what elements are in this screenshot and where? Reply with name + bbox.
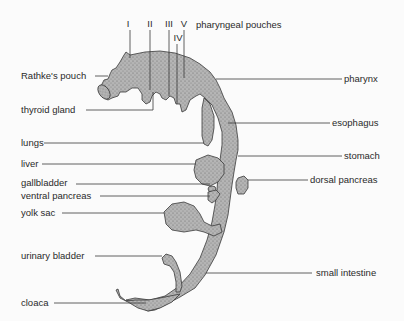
label-stomach: stomach bbox=[344, 150, 380, 161]
label-thyroid-gland: thyroid gland bbox=[21, 104, 75, 115]
label-lungs: lungs bbox=[21, 137, 44, 148]
label-rathkes-pouch: Rathke's pouch bbox=[21, 70, 86, 81]
label-cloaca: cloaca bbox=[21, 297, 49, 308]
embryonic-gut-diagram: I II III IV V pharyngeal pouches Rathke'… bbox=[0, 0, 404, 321]
pharyngeal-pouches-title: pharyngeal pouches bbox=[196, 19, 282, 30]
label-pharynx: pharynx bbox=[344, 73, 378, 84]
pouch-label-IV: IV bbox=[174, 32, 184, 43]
label-dorsal-pancreas: dorsal pancreas bbox=[310, 174, 378, 185]
label-liver: liver bbox=[21, 158, 38, 169]
pouch-label-I: I bbox=[127, 18, 130, 29]
label-esophagus: esophagus bbox=[332, 117, 379, 128]
label-urinary-bladder: urinary bladder bbox=[21, 250, 84, 261]
gut-tube bbox=[95, 51, 248, 311]
label-yolk-sac: yolk sac bbox=[21, 207, 56, 218]
pouch-label-II: II bbox=[147, 18, 152, 29]
label-gallbladder: gallbladder bbox=[21, 177, 67, 188]
dorsal-pancreas-shape bbox=[236, 176, 248, 194]
pouch-label-V: V bbox=[181, 18, 188, 29]
urinary-bladder-shape bbox=[162, 254, 182, 292]
pouch-label-III: III bbox=[165, 18, 173, 29]
label-small-intestine: small intestine bbox=[316, 267, 376, 278]
label-ventral-pancreas: ventral pancreas bbox=[21, 190, 91, 201]
